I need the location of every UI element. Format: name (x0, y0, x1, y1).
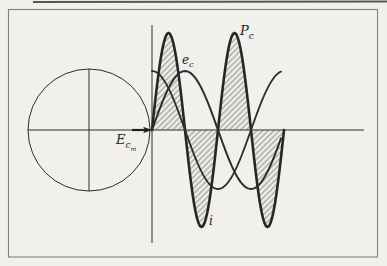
phasor-label: Ecm (116, 133, 136, 148)
power-label-sub: c (249, 31, 254, 41)
current-label-main: i (209, 214, 213, 228)
voltage-curve-label: ec (182, 54, 194, 66)
phasor-label-subsub: m (130, 144, 136, 151)
phasor-label-sub: cm (126, 140, 137, 150)
phasor-label-main: E (116, 132, 126, 147)
figure-canvas: Pc ec i Ecm (0, 0, 387, 266)
current-curve-label: i (209, 215, 213, 227)
power-curve-label: Pc (240, 24, 254, 37)
power-label-main: P (240, 23, 249, 38)
voltage-label-sub: c (189, 59, 194, 69)
diagram-svg (0, 0, 387, 266)
